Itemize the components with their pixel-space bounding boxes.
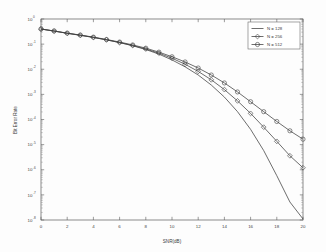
curve-series-0 xyxy=(41,29,303,219)
y-tick-label: 10-1 xyxy=(28,40,36,47)
x-tick-label: 0 xyxy=(40,224,43,229)
y-tick-label: 100 xyxy=(28,15,35,22)
x-tick-label: 18 xyxy=(274,224,279,229)
svg-text:-4: -4 xyxy=(33,116,36,120)
legend-label: N = 128 xyxy=(267,26,283,31)
bit-error-rate-chart: 02468101214161820 10010-110-210-310-410-… xyxy=(0,0,326,252)
y-tick-label: 10-8 xyxy=(28,216,36,223)
svg-text:-2: -2 xyxy=(33,65,36,69)
y-tick-label: 10-6 xyxy=(28,166,36,173)
x-tick-labels: 02468101214161820 xyxy=(40,224,306,229)
x-tick-label: 10 xyxy=(170,224,175,229)
x-tick-label: 16 xyxy=(248,224,253,229)
x-tick-label: 20 xyxy=(301,224,306,229)
x-tick-label: 14 xyxy=(222,224,227,229)
x-tick-label: 4 xyxy=(92,224,95,229)
x-tick-label: 12 xyxy=(196,224,201,229)
svg-text:-6: -6 xyxy=(33,166,36,170)
y-tick-label: 10-3 xyxy=(28,90,36,97)
svg-text:-7: -7 xyxy=(33,191,36,195)
figure-canvas: 02468101214161820 10010-110-210-310-410-… xyxy=(0,0,326,252)
svg-text:-8: -8 xyxy=(33,216,36,220)
x-tick-label: 8 xyxy=(145,224,148,229)
x-axis-label: SNR(dB) xyxy=(163,239,182,244)
y-tick-label: 10-2 xyxy=(28,65,36,72)
legend-entry-2[interactable]: N = 512 xyxy=(252,42,283,47)
y-tick-label: 10-7 xyxy=(28,191,36,198)
y-axis-label: Bit Error Rate xyxy=(13,106,18,134)
data-curves xyxy=(41,29,303,219)
curve-series-1 xyxy=(41,29,303,168)
svg-text:-1: -1 xyxy=(33,40,36,44)
legend-label: N = 256 xyxy=(267,34,283,39)
legend[interactable]: N = 128N = 256N = 512 xyxy=(248,22,300,49)
x-tick-label: 2 xyxy=(66,224,69,229)
svg-text:-5: -5 xyxy=(33,141,36,145)
svg-text:0: 0 xyxy=(33,15,35,19)
y-tick-labels: 10010-110-210-310-410-510-610-710-8 xyxy=(28,15,36,223)
legend-label: N = 512 xyxy=(267,42,283,47)
y-tick-label: 10-4 xyxy=(28,116,36,123)
y-tick-label: 10-5 xyxy=(28,141,36,148)
svg-text:-3: -3 xyxy=(33,90,36,94)
x-tick-label: 6 xyxy=(118,224,121,229)
